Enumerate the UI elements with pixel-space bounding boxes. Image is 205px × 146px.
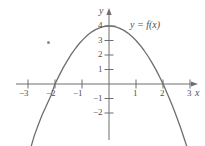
- stray-dot: [47, 41, 50, 44]
- x-tick-label-neg2: −2: [46, 89, 56, 98]
- x-axis-name: x: [195, 88, 199, 98]
- x-axis: [16, 81, 198, 86]
- curve-label: y = f(x): [130, 20, 160, 30]
- y-tick-label-1: 1: [98, 65, 103, 74]
- y-tick-label-neg2: −2: [93, 108, 103, 117]
- x-axis-arrowhead: [191, 81, 198, 86]
- x-tick-label-neg1: −1: [73, 89, 83, 98]
- y-axis: [106, 8, 111, 140]
- x-tick-label-1: 1: [133, 89, 138, 98]
- y-tick-label-3: 3: [98, 36, 103, 45]
- y-tick-label-4: 4: [98, 21, 103, 30]
- y-tick-marks: [105, 26, 116, 113]
- y-tick-label-neg1: −1: [93, 94, 103, 103]
- x-tick-label-3: 3: [187, 89, 192, 98]
- graph-figure: −3 −2 −1 1 2 3 4 3 2 1 −1 −2 y x y = f(x…: [0, 0, 205, 146]
- y-tick-label-2: 2: [98, 50, 103, 59]
- y-axis-name: y: [99, 6, 103, 16]
- x-tick-label-2: 2: [160, 89, 165, 98]
- x-tick-label-neg3: −3: [19, 89, 29, 98]
- y-axis-arrowhead: [106, 8, 111, 15]
